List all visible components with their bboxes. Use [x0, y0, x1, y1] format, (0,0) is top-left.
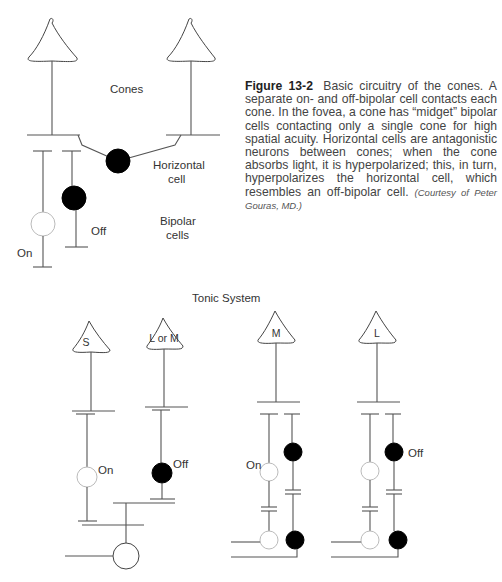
label-off: Off — [91, 225, 107, 237]
cone-l-label: L — [374, 327, 380, 339]
on-bipolar-cell — [31, 212, 55, 236]
bottom-diagram: Tonic System S On L or M Off M — [65, 292, 424, 569]
cone-s-label: S — [82, 336, 89, 348]
cone-s — [73, 321, 110, 353]
top-diagram: Cones Horizontal cell Bipolar cells On O… — [17, 18, 220, 267]
l-on-bipolar — [361, 462, 379, 480]
label-cones: Cones — [110, 83, 143, 95]
horizontal-cell — [106, 149, 130, 173]
lm-off-bipolar — [152, 463, 172, 483]
label-s-on: On — [98, 464, 113, 476]
m-on-bipolar — [260, 463, 278, 481]
m-on-ganglion — [260, 531, 278, 549]
tonic-system-title: Tonic System — [192, 292, 260, 304]
label-lm-off: Off — [173, 458, 189, 470]
figure-number: Figure 13-2 — [245, 79, 313, 93]
m-off-bipolar — [284, 443, 302, 461]
ganglion-cell-s — [113, 543, 139, 569]
label-bipolar: Bipolar — [160, 215, 196, 227]
cone-l-or-m-label: L or M — [149, 332, 178, 344]
cone-left — [28, 18, 77, 61]
cone-right — [167, 18, 215, 61]
cone-m-label: M — [272, 327, 281, 339]
off-bipolar-cell — [62, 186, 86, 210]
l-off-bipolar — [385, 443, 403, 461]
figure-caption-text: Basic circuitry of the cones. A separate… — [245, 79, 497, 199]
l-off-ganglion — [389, 531, 407, 549]
figure-caption: Figure 13-2 Basic circuitry of the cones… — [245, 80, 497, 212]
label-l-off: Off — [408, 447, 424, 459]
l-on-ganglion — [361, 531, 379, 549]
m-off-ganglion — [286, 531, 304, 549]
label-horizontal: Horizontal — [153, 159, 205, 171]
label-bipolar-cells: cells — [166, 229, 189, 241]
label-m-on: On — [246, 459, 261, 471]
label-horizontal-cell: cell — [168, 173, 185, 185]
s-on-bipolar — [77, 467, 97, 487]
label-on: On — [17, 247, 32, 259]
